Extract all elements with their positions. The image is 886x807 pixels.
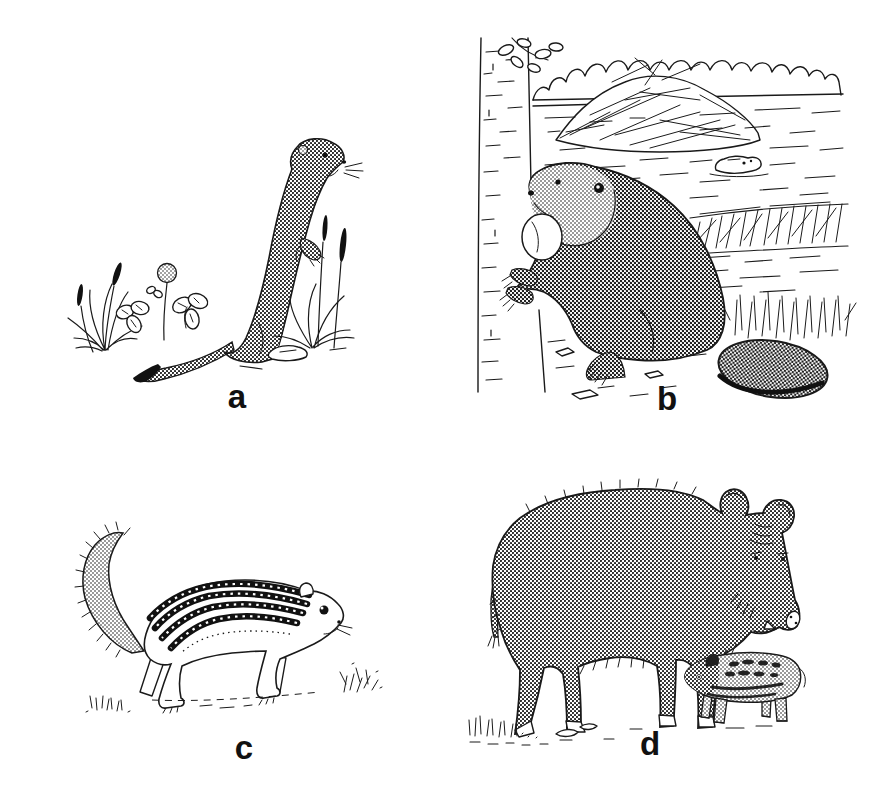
beaver-illustration <box>450 25 870 415</box>
swimming-beaver <box>710 156 768 176</box>
boar-eye <box>754 556 758 560</box>
reeds <box>720 292 856 340</box>
panel-label-c: c <box>222 731 266 764</box>
boar-hooves <box>515 715 715 737</box>
boar-eye <box>781 557 785 561</box>
squirrel-nose <box>337 620 341 624</box>
weasel-eye <box>322 152 327 157</box>
weasel-figure <box>133 139 363 383</box>
squirrel-figure <box>75 522 352 713</box>
clover-plant <box>114 264 209 341</box>
panel-label-a: a <box>215 380 259 413</box>
grass-marks <box>86 663 382 712</box>
squirrel-tail <box>83 533 144 653</box>
piglet-eye <box>698 676 700 678</box>
ground-marks <box>469 716 772 745</box>
weasel-illustration <box>55 120 375 410</box>
squirrel-eye <box>320 606 329 615</box>
beaver-eye <box>555 179 560 184</box>
beaver-figure <box>500 163 832 405</box>
weasel-ear <box>299 146 308 155</box>
wild-boar-illustration <box>445 465 860 760</box>
ground-squirrel-illustration <box>55 515 395 765</box>
weasel-body <box>224 139 344 363</box>
panel-label-b: b <box>645 382 689 415</box>
piglet-figure <box>685 653 806 723</box>
gnawed-wood-chip <box>522 214 562 260</box>
figure-plate: a b c d <box>0 0 886 807</box>
panel-label-d: d <box>628 727 672 760</box>
squirrel-ear <box>300 583 314 597</box>
